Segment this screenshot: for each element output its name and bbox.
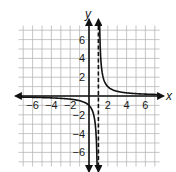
y-tick-label: −2 <box>72 109 85 121</box>
x-tick-label: −6 <box>26 99 39 111</box>
curve-right-branch <box>100 26 160 95</box>
x-tick-label: −4 <box>45 99 58 111</box>
axes <box>16 20 164 172</box>
y-tick-label: −6 <box>72 146 85 158</box>
y-tick-label: 6 <box>79 34 85 46</box>
x-tick-label: 4 <box>124 99 130 111</box>
x-tick-label: 2 <box>105 99 111 111</box>
y-axis-label: y <box>84 7 92 21</box>
x-tick-label: 6 <box>142 99 148 111</box>
y-tick-label: −4 <box>72 128 85 140</box>
y-tick-label: 2 <box>79 71 85 83</box>
hyperbola-graph: −6−4−2246642−2−4−6 x y <box>0 0 176 172</box>
y-tick-label: 4 <box>79 52 85 64</box>
x-axis-label: x <box>165 89 173 103</box>
